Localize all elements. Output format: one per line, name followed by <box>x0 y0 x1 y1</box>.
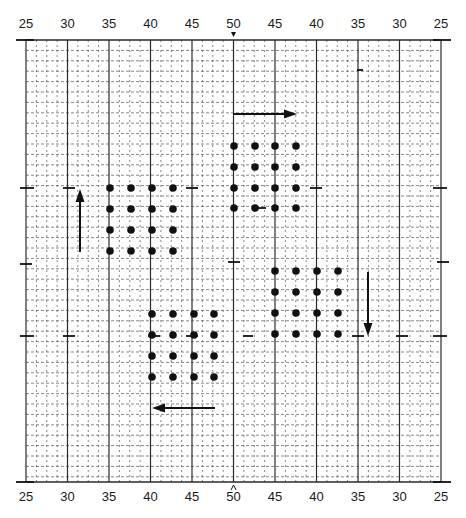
dot <box>106 247 114 255</box>
dot <box>127 184 135 192</box>
top-axis-label: 30 <box>60 16 74 31</box>
grid-canvas <box>0 0 466 518</box>
bottom-axis-label: 50 <box>226 489 240 504</box>
dot <box>210 310 218 318</box>
dot <box>313 309 321 317</box>
dot-group-upper-right <box>230 142 300 212</box>
bottom-axis-label: 45 <box>185 489 199 504</box>
dot <box>127 226 135 234</box>
bottom-axis-label: 35 <box>351 489 365 504</box>
down-caret-icon <box>231 32 236 37</box>
dot <box>169 352 177 360</box>
dot <box>106 184 114 192</box>
top-axis-label: 50 <box>226 16 240 31</box>
dot <box>334 288 342 296</box>
dot <box>251 204 259 212</box>
dot <box>292 330 300 338</box>
dot <box>148 226 156 234</box>
dot <box>271 184 279 192</box>
bottom-axis-label: 40 <box>309 489 323 504</box>
bottom-axis-label: 45 <box>268 489 282 504</box>
dot <box>230 163 238 171</box>
dot <box>271 330 279 338</box>
dot <box>190 310 198 318</box>
top-axis-label: 25 <box>434 16 448 31</box>
dot <box>190 352 198 360</box>
dot <box>169 331 177 339</box>
top-axis-label: 45 <box>185 16 199 31</box>
grid-diagram: 2530354045504540353025 25303540455045403… <box>0 0 466 518</box>
dot <box>169 205 177 213</box>
dot <box>148 331 156 339</box>
top-axis-label: 40 <box>309 16 323 31</box>
arrow-head <box>364 323 373 336</box>
dot <box>210 331 218 339</box>
bottom-axis-label: 30 <box>392 489 406 504</box>
dot <box>271 267 279 275</box>
arrow-right-icon <box>234 110 297 119</box>
direction-arrows <box>76 110 373 413</box>
arrow-head <box>284 110 297 119</box>
dot <box>313 330 321 338</box>
dot <box>271 163 279 171</box>
dot-group-upper-left <box>106 184 177 255</box>
dot <box>292 288 300 296</box>
top-axis-label: 45 <box>268 16 282 31</box>
dot <box>251 142 259 150</box>
dot <box>271 288 279 296</box>
arrow-left-icon <box>152 404 215 413</box>
dot <box>190 331 198 339</box>
top-axis-label: 40 <box>143 16 157 31</box>
bottom-axis-label: 30 <box>60 489 74 504</box>
dot <box>292 309 300 317</box>
bottom-axis-label: 25 <box>19 489 33 504</box>
top-axis-label: 35 <box>102 16 116 31</box>
dot <box>169 310 177 318</box>
dot <box>334 267 342 275</box>
bottom-axis-label: 25 <box>434 489 448 504</box>
dot-group-right <box>271 267 342 338</box>
dot <box>292 204 300 212</box>
top-axis-label: 25 <box>19 16 33 31</box>
dot <box>334 309 342 317</box>
dot <box>127 247 135 255</box>
dot <box>148 352 156 360</box>
dot <box>271 309 279 317</box>
dot <box>271 204 279 212</box>
dot <box>230 184 238 192</box>
dot <box>251 163 259 171</box>
dot <box>148 310 156 318</box>
arrow-up-icon <box>76 189 85 252</box>
dot <box>210 352 218 360</box>
arrow-head <box>152 404 165 413</box>
dot <box>190 373 198 381</box>
dot <box>127 205 135 213</box>
arrow-head <box>76 189 85 202</box>
dot <box>148 373 156 381</box>
dot <box>169 247 177 255</box>
dot <box>148 205 156 213</box>
dot <box>169 184 177 192</box>
top-axis-label: 30 <box>392 16 406 31</box>
arrow-down-icon <box>364 272 373 336</box>
dot <box>292 142 300 150</box>
dot <box>148 184 156 192</box>
dot <box>230 142 238 150</box>
dot <box>271 142 279 150</box>
dot <box>313 288 321 296</box>
top-axis-label: 35 <box>351 16 365 31</box>
dot <box>292 267 300 275</box>
bottom-axis-label: 35 <box>102 489 116 504</box>
dot <box>106 205 114 213</box>
dot <box>334 330 342 338</box>
dot <box>292 184 300 192</box>
dot <box>313 267 321 275</box>
dot <box>148 247 156 255</box>
dot <box>106 226 114 234</box>
bottom-axis-label: 40 <box>143 489 157 504</box>
dot <box>169 226 177 234</box>
dot <box>251 184 259 192</box>
dot <box>230 204 238 212</box>
dot <box>169 373 177 381</box>
dot <box>292 163 300 171</box>
